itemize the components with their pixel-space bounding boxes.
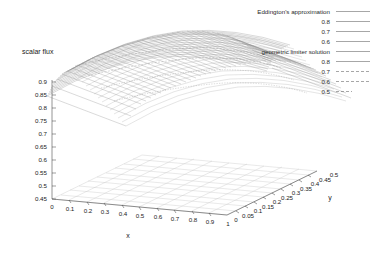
z-tick-1: 0.85 xyxy=(35,91,48,98)
x-tick-5: 0.5 xyxy=(136,212,145,219)
x-axis-label: x xyxy=(126,232,130,239)
z-tick-7: 0.55 xyxy=(35,169,48,176)
legend-label-8: 0.5 xyxy=(321,88,330,95)
x-tick-7: 0.7 xyxy=(171,215,180,222)
x-tick-6: 0.6 xyxy=(154,213,163,220)
legend-label-7: 0.6 xyxy=(321,78,330,85)
x-tick-4: 0.4 xyxy=(119,210,128,217)
z-tick-4: 0.7 xyxy=(38,130,47,137)
x-tick-8: 0.8 xyxy=(189,216,198,223)
z-tick-5: 0.65 xyxy=(35,143,48,150)
legend-label-0: Eddington's approximation xyxy=(257,8,330,15)
legend-label-5: 0.8 xyxy=(321,58,330,65)
y-axis-label: y xyxy=(328,194,332,202)
legend-label-6: 0.7 xyxy=(321,68,330,75)
z-tick-6: 0.6 xyxy=(38,156,47,163)
y-tick-0: 0 xyxy=(234,216,238,223)
z-tick-0: 0.9 xyxy=(38,78,47,85)
x-tick-3: 0.3 xyxy=(101,208,110,215)
x-tick-10: 1 xyxy=(226,220,230,227)
legend-label-2: 0.7 xyxy=(321,28,330,35)
legend-label-4: geometric limiter solution xyxy=(262,48,331,55)
z-tick-2: 0.8 xyxy=(38,104,47,111)
z-tick-3: 0.75 xyxy=(35,117,48,124)
z-tick-9: 0.45 xyxy=(35,195,48,202)
surface-plot-figure: 0.9 0.85 0.8 0.75 0.7 0.65 0.6 0.55 0.5 … xyxy=(0,0,375,255)
legend-label-1: 0.8 xyxy=(321,18,330,25)
y-tick-1: 0.05 xyxy=(242,212,255,219)
x-tick-9: 0.9 xyxy=(206,218,215,225)
legend-label-3: 0.6 xyxy=(321,38,330,45)
plot-title: scalar flux xyxy=(22,48,54,55)
x-tick-0: 0 xyxy=(50,203,54,210)
x-tick-1: 0.1 xyxy=(66,205,75,212)
x-tick-2: 0.2 xyxy=(84,207,93,214)
plot-canvas: 0.9 0.85 0.8 0.75 0.7 0.65 0.6 0.55 0.5 … xyxy=(0,0,375,255)
z-tick-8: 0.5 xyxy=(38,182,47,189)
y-tick-10: 0.5 xyxy=(330,171,339,178)
